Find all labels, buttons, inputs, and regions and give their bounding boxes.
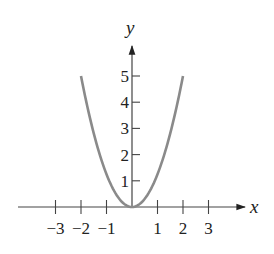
- parabola-chart: −3−2−1123 12345 x y: [0, 0, 274, 254]
- x-tick-label: −3: [46, 219, 64, 238]
- x-tick-label: 2: [179, 219, 188, 238]
- x-tick-label: 3: [204, 219, 213, 238]
- y-tick-label: 3: [121, 119, 130, 138]
- y-ticks: 12345: [121, 67, 141, 191]
- x-tick-label: −1: [97, 219, 115, 238]
- x-tick-label: −2: [72, 219, 90, 238]
- y-tick-label: 4: [121, 93, 130, 112]
- y-axis-label: y: [124, 17, 135, 38]
- y-tick-label: 5: [121, 67, 130, 86]
- x-axis-label: x: [249, 196, 259, 217]
- y-tick-label: 1: [121, 172, 130, 191]
- y-tick-label: 2: [121, 146, 130, 165]
- x-tick-label: 1: [153, 219, 162, 238]
